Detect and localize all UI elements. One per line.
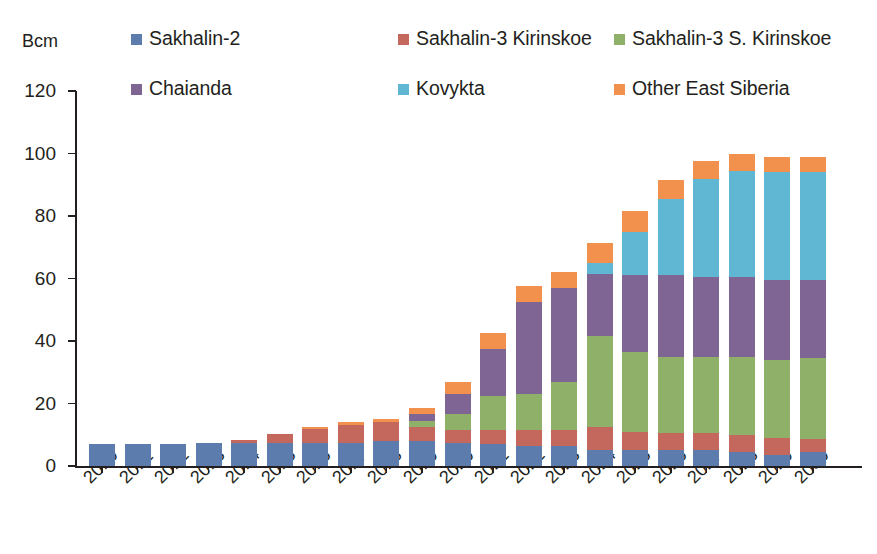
bar-segment-sakhalin-2[interactable] (800, 452, 826, 466)
bar-segment-sakhalin-3-kirinskoe[interactable] (231, 440, 257, 443)
bar-segment-sakhalin-2[interactable] (196, 443, 222, 466)
bar-segment-sakhalin-3-kirinskoe[interactable] (480, 430, 506, 444)
bar-segment-sakhalin-3-s-kirinskoe[interactable] (445, 414, 471, 430)
bar-segment-sakhalin-3-kirinskoe[interactable] (622, 432, 648, 451)
bar-segment-sakhalin-3-kirinskoe[interactable] (302, 429, 328, 443)
bar-2013[interactable] (196, 0, 222, 466)
bar-segment-chaianda[interactable] (729, 277, 755, 357)
bar-segment-kovykta[interactable] (587, 263, 613, 274)
bar-segment-other-east-siberia[interactable] (516, 286, 542, 302)
bar-segment-chaianda[interactable] (409, 414, 435, 420)
bar-2017[interactable] (338, 0, 364, 466)
bar-2029[interactable] (764, 0, 790, 466)
bar-segment-other-east-siberia[interactable] (373, 419, 399, 422)
bar-segment-sakhalin-2[interactable] (764, 455, 790, 466)
bar-segment-chaianda[interactable] (693, 277, 719, 357)
bar-segment-sakhalin-3-s-kirinskoe[interactable] (729, 357, 755, 435)
bar-segment-sakhalin-2[interactable] (302, 443, 328, 466)
bar-segment-other-east-siberia[interactable] (764, 157, 790, 173)
bar-2015[interactable] (267, 0, 293, 466)
bar-2024[interactable] (587, 0, 613, 466)
bar-segment-chaianda[interactable] (480, 349, 506, 396)
bar-segment-other-east-siberia[interactable] (658, 180, 684, 199)
bar-segment-sakhalin-2[interactable] (622, 450, 648, 466)
bar-2022[interactable] (516, 0, 542, 466)
bar-segment-sakhalin-3-s-kirinskoe[interactable] (516, 394, 542, 430)
bar-segment-sakhalin-3-s-kirinskoe[interactable] (622, 352, 648, 432)
bar-segment-other-east-siberia[interactable] (729, 154, 755, 171)
bar-segment-sakhalin-2[interactable] (516, 446, 542, 466)
bar-segment-sakhalin-2[interactable] (409, 441, 435, 466)
bar-segment-sakhalin-2[interactable] (693, 450, 719, 466)
bar-segment-sakhalin-3-kirinskoe[interactable] (267, 434, 293, 443)
bar-segment-kovykta[interactable] (764, 172, 790, 280)
bar-segment-chaianda[interactable] (800, 280, 826, 358)
bar-segment-chaianda[interactable] (622, 275, 648, 352)
bar-segment-kovykta[interactable] (800, 172, 826, 280)
bar-segment-sakhalin-2[interactable] (231, 443, 257, 466)
bar-2025[interactable] (622, 0, 648, 466)
bar-segment-sakhalin-3-kirinskoe[interactable] (800, 439, 826, 452)
bar-segment-sakhalin-2[interactable] (658, 450, 684, 466)
bar-segment-other-east-siberia[interactable] (480, 333, 506, 349)
bar-segment-sakhalin-3-s-kirinskoe[interactable] (658, 357, 684, 434)
bar-segment-other-east-siberia[interactable] (693, 161, 719, 178)
bar-segment-sakhalin-2[interactable] (551, 446, 577, 466)
bar-segment-sakhalin-2[interactable] (445, 443, 471, 466)
bar-segment-chaianda[interactable] (516, 302, 542, 394)
bar-2011[interactable] (125, 0, 151, 466)
bar-segment-sakhalin-3-kirinskoe[interactable] (693, 433, 719, 450)
bar-segment-sakhalin-3-kirinskoe[interactable] (587, 427, 613, 450)
bar-segment-other-east-siberia[interactable] (338, 422, 364, 425)
bar-segment-sakhalin-2[interactable] (125, 444, 151, 466)
bar-segment-other-east-siberia[interactable] (409, 408, 435, 414)
bar-2018[interactable] (373, 0, 399, 466)
bar-segment-kovykta[interactable] (658, 199, 684, 276)
bar-segment-chaianda[interactable] (445, 394, 471, 414)
bar-segment-sakhalin-3-kirinskoe[interactable] (445, 430, 471, 443)
bar-2030[interactable] (800, 0, 826, 466)
bar-segment-sakhalin-3-s-kirinskoe[interactable] (587, 336, 613, 427)
bar-segment-sakhalin-3-kirinskoe[interactable] (658, 433, 684, 450)
bar-segment-sakhalin-2[interactable] (267, 443, 293, 466)
bar-segment-other-east-siberia[interactable] (587, 243, 613, 263)
bar-2014[interactable] (231, 0, 257, 466)
bar-segment-sakhalin-3-s-kirinskoe[interactable] (764, 360, 790, 438)
bar-segment-sakhalin-3-kirinskoe[interactable] (409, 427, 435, 441)
bar-2028[interactable] (729, 0, 755, 466)
bar-segment-other-east-siberia[interactable] (551, 272, 577, 288)
bar-segment-sakhalin-2[interactable] (373, 441, 399, 466)
bar-segment-chaianda[interactable] (658, 275, 684, 356)
bar-2020[interactable] (445, 0, 471, 466)
bar-segment-sakhalin-2[interactable] (160, 444, 186, 467)
bar-2016[interactable] (302, 0, 328, 466)
bar-segment-sakhalin-2[interactable] (89, 444, 115, 466)
bar-segment-sakhalin-2[interactable] (338, 443, 364, 466)
bar-segment-other-east-siberia[interactable] (445, 382, 471, 395)
bar-segment-sakhalin-3-kirinskoe[interactable] (729, 435, 755, 452)
bar-segment-kovykta[interactable] (622, 232, 648, 276)
bar-2021[interactable] (480, 0, 506, 466)
bar-segment-sakhalin-3-kirinskoe[interactable] (373, 422, 399, 441)
bar-2019[interactable] (409, 0, 435, 466)
bar-segment-sakhalin-3-s-kirinskoe[interactable] (693, 357, 719, 434)
bar-segment-other-east-siberia[interactable] (302, 427, 328, 429)
bar-segment-sakhalin-3-s-kirinskoe[interactable] (800, 358, 826, 439)
bar-segment-sakhalin-3-s-kirinskoe[interactable] (409, 421, 435, 427)
bar-segment-kovykta[interactable] (693, 179, 719, 277)
bar-segment-other-east-siberia[interactable] (800, 157, 826, 173)
bar-segment-chaianda[interactable] (764, 280, 790, 360)
bar-segment-sakhalin-3-s-kirinskoe[interactable] (480, 396, 506, 430)
bar-segment-sakhalin-3-kirinskoe[interactable] (516, 430, 542, 446)
bar-2026[interactable] (658, 0, 684, 466)
bar-segment-kovykta[interactable] (729, 171, 755, 277)
bar-segment-sakhalin-2[interactable] (480, 444, 506, 466)
bar-2012[interactable] (160, 0, 186, 466)
bar-segment-chaianda[interactable] (551, 288, 577, 382)
bar-2023[interactable] (551, 0, 577, 466)
bar-segment-sakhalin-3-kirinskoe[interactable] (764, 438, 790, 455)
bar-segment-chaianda[interactable] (587, 274, 613, 337)
bar-segment-sakhalin-2[interactable] (729, 452, 755, 466)
bar-2010[interactable] (89, 0, 115, 466)
bar-2027[interactable] (693, 0, 719, 466)
